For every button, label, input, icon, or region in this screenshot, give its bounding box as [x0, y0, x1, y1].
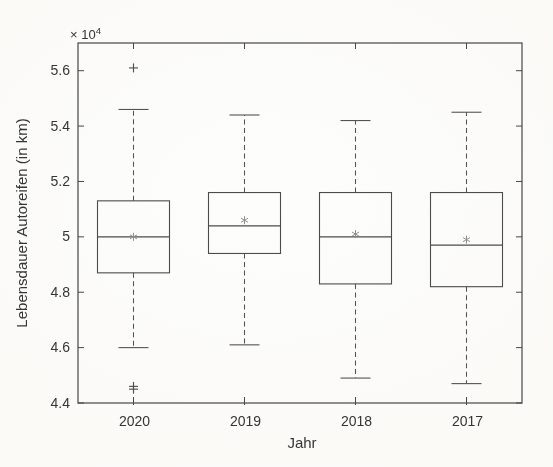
mean-marker: [241, 216, 248, 224]
x-tick-label: 2020: [119, 413, 150, 429]
y-tick-label: 5.4: [51, 118, 71, 134]
boxplot-figure: 5.65.45.254.84.64.42020201920182017 × 10…: [0, 0, 553, 467]
x-tick-label: 2018: [341, 413, 372, 429]
y-tick-label: 4.8: [51, 284, 71, 300]
boxplot-2019: [209, 115, 281, 345]
offset-base: × 10: [70, 27, 96, 42]
y-tick-label: 5.2: [51, 173, 71, 189]
boxplot-chart: 5.65.45.254.84.64.42020201920182017: [0, 0, 553, 467]
x-axis-label: Jahr: [287, 434, 316, 451]
outlier-marker: [129, 63, 138, 72]
x-tick-label: 2019: [230, 413, 261, 429]
x-tick-label: 2017: [452, 413, 483, 429]
iqr-box: [320, 193, 392, 284]
y-tick-label: 5: [62, 228, 70, 244]
offset-exponent: 4: [96, 25, 101, 36]
scanned-page: 5.65.45.254.84.64.42020201920182017 × 10…: [0, 0, 553, 467]
x-axis-ticks: 2020201920182017: [119, 43, 483, 429]
mean-marker: [463, 236, 470, 244]
y-axis-label: Lebensdauer Autoreifen (in km): [13, 118, 30, 327]
y-tick-label: 5.6: [51, 62, 71, 78]
boxplot-2020: [98, 63, 170, 393]
y-axis-offset-label: × 104: [70, 25, 101, 42]
y-tick-label: 4.6: [51, 339, 71, 355]
boxplot-2017: [431, 112, 503, 383]
y-tick-label: 4.4: [51, 395, 71, 411]
plot-frame: [78, 43, 522, 403]
boxplot-2018: [320, 121, 392, 379]
